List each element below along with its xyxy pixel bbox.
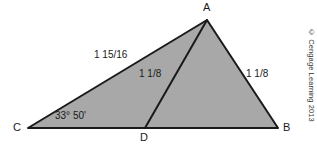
vertex-label-c: C bbox=[13, 122, 21, 133]
angle-label-c: 33° 50' bbox=[55, 111, 86, 121]
measure-label-cevian-ad: 1 1/8 bbox=[139, 69, 161, 79]
measure-label-side-ca: 1 15/16 bbox=[94, 50, 127, 60]
vertex-label-b: B bbox=[283, 122, 290, 133]
vertex-label-a: A bbox=[203, 2, 210, 13]
triangle-figure: A B C D 1 15/16 1 1/8 1 1/8 33° 50' © Ce… bbox=[0, 0, 317, 150]
vertex-label-d: D bbox=[140, 132, 148, 143]
copyright-credit: © Cengage Learning 2013 bbox=[307, 28, 316, 122]
measure-label-side-ab: 1 1/8 bbox=[246, 69, 268, 79]
